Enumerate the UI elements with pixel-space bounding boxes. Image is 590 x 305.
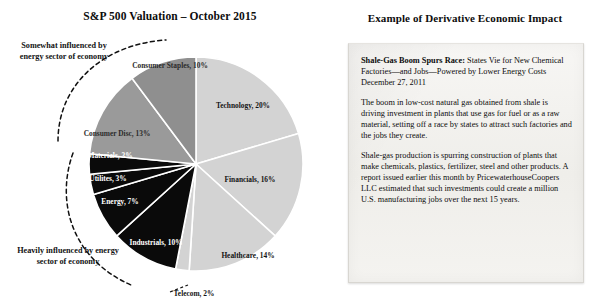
article-paragraph: Shale-gas production is spurring constru… (361, 150, 572, 205)
pie-slice-label: Consumer Disc, 13% (84, 129, 151, 138)
news-clipping-card: Shale-Gas Boom Spurs Race: States Vie fo… (348, 43, 584, 283)
pie-slice-label: Energy, 7% (101, 197, 138, 206)
article-panel-title: Example of Derivative Economic Impact (340, 12, 590, 24)
pie-chart-panel: S&P 500 Valuation – October 2015 Technol… (0, 0, 340, 305)
pie-slice-label: Financials, 16% (225, 175, 276, 184)
pie-slice-label: Technology, 20% (216, 101, 270, 110)
article-panel: Example of Derivative Economic Impact Sh… (340, 0, 590, 305)
pie-slice-label: Healthcare, 14% (221, 251, 274, 260)
pie-slices-group (89, 57, 303, 271)
pie-slice-label: Telecom, 2% (174, 289, 215, 298)
article-paragraph: The boom in low-cost natural gas obtaine… (361, 97, 572, 141)
news-clipping-content: Shale-Gas Boom Spurs Race: States Vie fo… (361, 55, 572, 205)
pie-slice-label: Materials, 3% (87, 151, 132, 160)
article-headline-lead: Shale-Gas Boom Spurs Race: (361, 56, 465, 65)
pie-slice-label: Utilites, 3% (89, 174, 126, 183)
article-date: December 27, 2011 (361, 77, 572, 88)
article-headline: Shale-Gas Boom Spurs Race: States Vie fo… (361, 55, 572, 77)
annotation-heavily-influenced: Heavily influenced by energy sector of e… (16, 246, 120, 267)
pie-slice-label: Consumer Staples, 10% (132, 61, 208, 70)
slide-canvas: S&P 500 Valuation – October 2015 Technol… (0, 0, 590, 305)
pie-slice-label: Industrials, 10% (130, 238, 183, 247)
annotation-somewhat-influenced: Somewhat influenced by energy sector of … (12, 41, 116, 62)
